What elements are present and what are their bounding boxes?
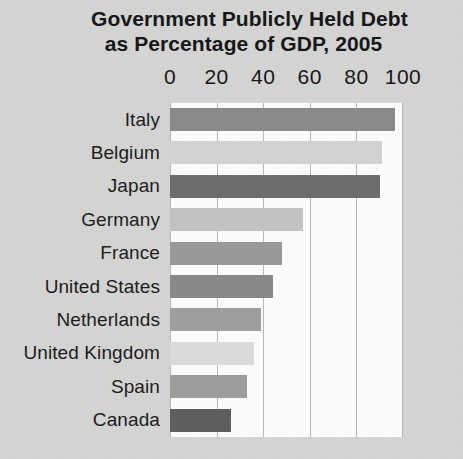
- bar: [170, 141, 382, 164]
- bar: [170, 275, 273, 298]
- chart-title: Government Publicly Held Debt as Percent…: [0, 6, 463, 56]
- bar: [170, 308, 261, 331]
- x-tick-label: 20: [204, 64, 228, 90]
- x-tick-label: 0: [164, 64, 176, 90]
- bar-row: [170, 404, 403, 437]
- category-label: Italy: [125, 103, 160, 136]
- chart-title-line-2: as Percentage of GDP, 2005: [0, 31, 463, 56]
- bar-row: [170, 370, 403, 403]
- category-label: Canada: [93, 404, 160, 437]
- x-tick-label: 80: [344, 64, 368, 90]
- x-axis-tick-labels: 020406080100: [0, 64, 463, 94]
- category-label: Spain: [111, 370, 160, 403]
- bar-row: [170, 103, 403, 136]
- category-label: Japan: [108, 170, 160, 203]
- category-label: France: [100, 237, 160, 270]
- category-label: Germany: [81, 203, 160, 236]
- chart-figure: Government Publicly Held Debt as Percent…: [0, 0, 463, 459]
- category-label: Netherlands: [56, 303, 160, 336]
- bar-row: [170, 203, 403, 236]
- bar: [170, 108, 395, 131]
- x-tick-label: 100: [385, 64, 422, 90]
- bar-row: [170, 337, 403, 370]
- bar: [170, 375, 247, 398]
- bar: [170, 342, 254, 365]
- bar-row: [170, 237, 403, 270]
- category-label: United States: [45, 270, 160, 303]
- bar: [170, 242, 282, 265]
- category-label: United Kingdom: [23, 337, 160, 370]
- category-label: Belgium: [91, 136, 160, 169]
- x-tick-label: 40: [251, 64, 275, 90]
- bar: [170, 208, 303, 231]
- bar-row: [170, 136, 403, 169]
- bar: [170, 175, 380, 198]
- chart-title-line-1: Government Publicly Held Debt: [0, 6, 463, 31]
- bar-row: [170, 303, 403, 336]
- bar-row: [170, 170, 403, 203]
- x-tick-label: 60: [298, 64, 322, 90]
- bar-row: [170, 270, 403, 303]
- plot-area: [170, 103, 403, 437]
- bar: [170, 409, 231, 432]
